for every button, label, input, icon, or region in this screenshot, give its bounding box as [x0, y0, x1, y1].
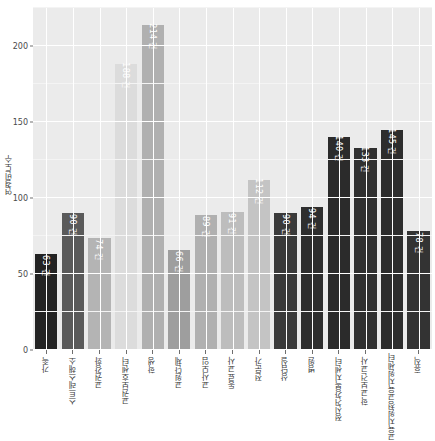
x-axis-tick-label: 교권보호센터	[122, 357, 130, 405]
gridline-vertical	[46, 8, 47, 350]
x-axis-tick-label: 휴직	[414, 357, 422, 373]
gridline-vertical	[259, 8, 260, 350]
x-axis-tick-mark	[205, 350, 206, 354]
gridline-vertical	[286, 8, 287, 350]
x-axis-tick-mark	[72, 350, 73, 354]
x-axis-tick-label: 병원	[308, 357, 316, 373]
x-axis-tick: 전문가	[246, 350, 273, 430]
x-axis-tick: 가족	[33, 350, 60, 430]
x-axis-tick-mark	[99, 350, 100, 354]
x-axis-tick: 교원단체	[166, 350, 193, 430]
x-axis-tick-mark	[259, 350, 260, 354]
gridline-vertical	[100, 8, 101, 350]
x-axis-tick-label: 교육지원청교육지원센터	[388, 353, 396, 441]
gridline-vertical	[206, 8, 207, 350]
x-axis-tick-label: 교권강화	[95, 357, 103, 389]
gridline-vertical	[233, 8, 234, 350]
y-axis-tick-label: 200	[13, 42, 28, 51]
x-axis-tick-label: 상담실	[281, 357, 289, 381]
y-axis-title: 연결빈도수	[2, 0, 16, 350]
x-axis-tick-label: 동료교사	[228, 357, 236, 389]
x-axis-tick: 학교보건교사	[352, 350, 379, 430]
x-axis-tick-label: 가족	[42, 357, 50, 373]
y-axis-tick-label: 50	[18, 270, 28, 279]
x-axis-tick-mark	[365, 350, 366, 354]
x-axis-tick-label: 교원단체	[175, 357, 183, 389]
x-axis-tick-mark	[179, 350, 180, 354]
x-axis-tick: 상담실	[272, 350, 299, 430]
gridline-vertical	[153, 8, 154, 350]
x-axis-tick-label: 스트레스해소	[69, 357, 77, 405]
y-axis: 050100150200	[18, 0, 33, 350]
x-axis-tick: 휴직	[405, 350, 432, 430]
gridline-vertical	[339, 8, 340, 350]
x-axis-tick-mark	[285, 350, 286, 354]
gridline-vertical	[366, 8, 367, 350]
x-axis-tick: 학생	[139, 350, 166, 430]
x-axis-tick-mark	[126, 350, 127, 354]
x-axis-tick-mark	[232, 350, 233, 354]
x-axis-tick: 교권강화	[86, 350, 113, 430]
x-axis-tick: 교권보호센터	[113, 350, 140, 430]
y-axis-tick-label: 150	[13, 118, 28, 127]
x-axis-tick: 스트레스해소	[60, 350, 87, 430]
x-axis-tick: 동료교사	[219, 350, 246, 430]
y-axis-tick-label: 0	[23, 346, 28, 355]
plot-panel: 63 건90 건74 건188 건214 건66 건89 건91 건112 건9…	[33, 8, 432, 350]
x-axis-tick: 정신건강복지센터	[326, 350, 353, 430]
gridline-vertical	[419, 8, 420, 350]
x-axis: 가족스트레스해소교권강화교권보호센터학생교원단체교사모임동료교사전문가상담실병원…	[33, 350, 432, 430]
x-axis-tick-mark	[46, 350, 47, 354]
x-axis-tick-label: 학교보건교사	[361, 357, 369, 405]
x-axis-tick-mark	[152, 350, 153, 354]
gridline-vertical	[392, 8, 393, 350]
y-axis-tick-label: 100	[13, 194, 28, 203]
x-axis-tick-label: 정신건강복지센터	[335, 357, 343, 421]
x-axis-tick: 병원	[299, 350, 326, 430]
x-axis-tick-label: 전문가	[255, 357, 263, 381]
x-axis-tick-mark	[418, 350, 419, 354]
x-axis-tick: 교사모임	[193, 350, 220, 430]
gridline-vertical	[126, 8, 127, 350]
gridline-vertical	[73, 8, 74, 350]
x-axis-tick-label: 교사모임	[202, 357, 210, 389]
x-axis-tick-mark	[312, 350, 313, 354]
x-axis-tick-mark	[338, 350, 339, 354]
gridline-vertical	[312, 8, 313, 350]
x-axis-tick: 교육지원청교육지원센터	[379, 350, 406, 430]
x-axis-tick-label: 학생	[148, 357, 156, 373]
gridline-vertical	[179, 8, 180, 350]
